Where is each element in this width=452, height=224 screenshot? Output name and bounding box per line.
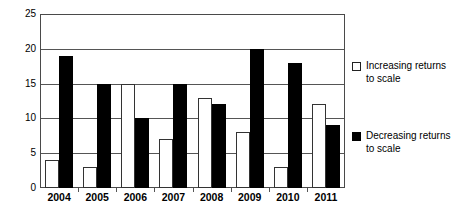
bars-layer [40,14,345,188]
bar-decreasing-2004 [59,56,73,188]
bar-group [45,14,73,188]
bar-increasing-2010 [274,167,288,188]
hollow-square-icon [352,62,361,71]
bar-decreasing-2006 [135,118,149,188]
legend-item-decreasing: Decreasing returnsto scale [352,130,450,155]
bar-increasing-2009 [236,132,250,188]
x-tick-label: 2005 [78,191,116,204]
y-tick-label: 5 [2,148,36,158]
bar-decreasing-2011 [326,125,340,188]
bar-group [121,14,149,188]
bar-group [83,14,111,188]
bar-increasing-2006 [121,84,135,188]
bar-decreasing-2007 [173,84,187,188]
bar-group [198,14,226,188]
bar-group [274,14,302,188]
y-tick-label: 0 [2,183,36,193]
bar-group [312,14,340,188]
bar-increasing-2004 [45,160,59,188]
bar-increasing-2011 [312,104,326,188]
y-tick-label: 20 [2,44,36,54]
bar-decreasing-2005 [97,84,111,188]
y-tick-label: 10 [2,113,36,123]
bar-group [159,14,187,188]
y-tick-label: 15 [2,79,36,89]
y-axis: 0510152025 [0,0,36,224]
legend-item-increasing: Increasing returnsto scale [352,60,446,85]
x-tick-label: 2011 [307,191,345,204]
y-tick-label: 25 [2,9,36,19]
bar-group [236,14,264,188]
bar-decreasing-2008 [212,104,226,188]
x-axis: 20042005200620072008200920102011 [40,191,345,207]
bar-decreasing-2009 [250,49,264,188]
x-tick-label: 2009 [231,191,269,204]
bar-decreasing-2010 [288,63,302,188]
bar-increasing-2007 [159,139,173,188]
bar-increasing-2005 [83,167,97,188]
bar-increasing-2008 [198,98,212,188]
x-tick-label: 2010 [269,191,307,204]
x-tick-label: 2007 [154,191,192,204]
legend-label-decreasing: Decreasing returnsto scale [366,130,450,155]
x-tick-label: 2008 [193,191,231,204]
filled-square-icon [352,132,361,141]
x-tick-label: 2004 [40,191,78,204]
bar-chart: 0510152025 20042005200620072008200920102… [0,0,452,224]
legend-label-increasing: Increasing returnsto scale [366,60,446,85]
x-tick-label: 2006 [116,191,154,204]
